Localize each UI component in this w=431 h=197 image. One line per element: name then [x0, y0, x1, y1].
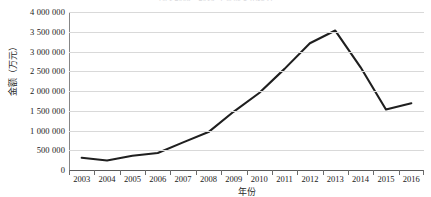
gridline	[69, 12, 424, 13]
y-axis-tick-labels: 0500 0001 000 0001 500 0002 000 0002 500…	[0, 0, 68, 197]
x-tick-label: 2006	[149, 174, 166, 184]
gridline	[69, 32, 424, 33]
x-tick-label: 2003	[73, 174, 90, 184]
gridline	[69, 150, 424, 151]
x-tick-label: 2012	[301, 174, 318, 184]
y-tick-label: 4 000 000	[30, 7, 65, 17]
line-chart: 图 1 2003—2016 年金额变化趋势 金额（万元） 0500 0001 0…	[0, 0, 431, 197]
gridline	[69, 52, 424, 53]
gridline	[69, 71, 424, 72]
y-tick-label: 2 000 000	[30, 86, 65, 96]
x-tick-label: 2014	[352, 174, 369, 184]
y-tick-label: 3 500 000	[30, 27, 65, 37]
x-tick-label: 2004	[99, 174, 116, 184]
x-tick-label: 2011	[276, 174, 293, 184]
x-tick-label: 2016	[403, 174, 420, 184]
x-axis-title: 年份	[69, 185, 424, 197]
y-tick-label: 2 500 000	[30, 66, 65, 76]
y-tick-label: 0	[61, 165, 65, 175]
plot-area	[69, 12, 424, 170]
gridline	[69, 131, 424, 132]
x-tick-label: 2005	[124, 174, 141, 184]
gridline	[69, 91, 424, 92]
gridline	[69, 111, 424, 112]
y-tick-label: 3 000 000	[30, 47, 65, 57]
y-tick-label: 500 000	[37, 145, 65, 155]
x-tick-label: 2010	[251, 174, 268, 184]
x-tick-label: 2007	[175, 174, 192, 184]
x-tick-label: 2008	[200, 174, 217, 184]
x-tick-label: 2009	[225, 174, 242, 184]
x-tick-label: 2015	[377, 174, 394, 184]
x-tick-label: 2013	[327, 174, 344, 184]
y-tick-label: 1 500 000	[30, 106, 65, 116]
y-tick-label: 1 000 000	[30, 126, 65, 136]
